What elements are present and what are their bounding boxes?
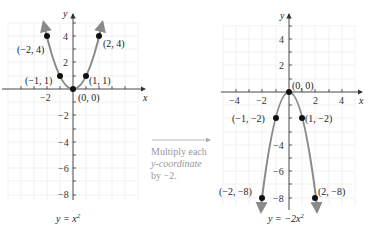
right-y-axis-label: y [279,10,285,21]
transform-annotation: Multiply each y-coordinate by −2. [150,140,210,181]
left-point-label: (−2, 4) [17,44,44,56]
right-point-label: (1, −2) [305,113,332,125]
annotation-line-1: Multiply each [151,146,207,157]
right-x-tick-label: −2 [256,95,267,106]
right-point-label: (−2, −8) [219,186,252,198]
right-x-tick-label: −4 [229,95,240,106]
left-chart: −2 4 2 −2 −4 −6 −8 x y (−2, 4) (−1, 1) (… [2,8,148,224]
left-y-axis-label: y [62,8,68,19]
right-y-tick-label: −4 [273,140,284,151]
left-y-tick-label: 4 [63,31,68,42]
left-y-tick-label: −2 [58,110,69,121]
left-x-tick-label: −2 [40,92,51,103]
right-point-label: (2, −8) [318,186,345,198]
right-x-axis-label: x [358,95,364,106]
left-point-label: (−1, 1) [25,75,52,87]
right-point-label: (0, 0) [292,80,314,92]
right-x-tick-label: 4 [339,95,344,106]
right-point-label: (−1, −2) [232,113,265,125]
left-equation-label: y = x2 [55,212,81,224]
right-chart: −4 −2 2 4 4 2 −4 −6 −8 x y (−2, −8) (−1,… [219,10,364,224]
left-x-axis-label: x [142,92,148,103]
right-y-tick-label: 4 [279,34,284,45]
left-y-tick-label: −4 [58,137,69,148]
right-y-tick-label: −6 [273,166,284,177]
right-y-tick-label: −8 [273,193,284,204]
figure: −2 4 2 −2 −4 −6 −8 x y (−2, 4) (−1, 1) (… [0,0,369,232]
annotation-line-2: y-coordinate [150,158,202,169]
right-x-tick-label: 2 [313,95,318,106]
right-equation-label: y = −2x2 [267,212,304,224]
left-y-tick-label: −8 [58,189,69,200]
left-point-label: (1, 1) [89,75,111,87]
left-y-tick-label: −6 [58,163,69,174]
annotation-line-3: by −2. [151,170,177,181]
right-y-tick-label: 2 [279,60,284,71]
left-y-tick-label: 2 [63,57,68,68]
left-point-label: (2, 4) [103,38,125,50]
left-point-label: (0, 0) [78,92,100,104]
